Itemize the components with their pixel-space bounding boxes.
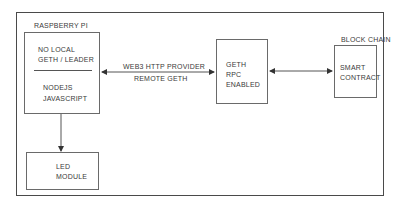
connector-arrows [0,0,413,206]
